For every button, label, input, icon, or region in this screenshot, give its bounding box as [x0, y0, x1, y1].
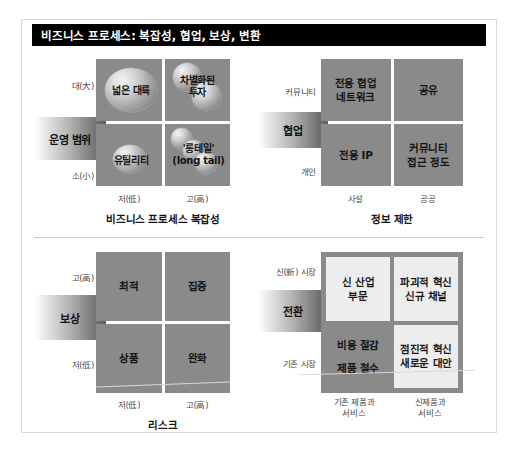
tr-y-tick-individual: 개인	[270, 165, 316, 177]
horizontal-divider	[34, 237, 484, 238]
tl-y-tick-low: 소(小)	[50, 169, 94, 181]
br-cell-bottom-left: 비용 절감 제품 철수	[326, 325, 390, 389]
tr-caption: 정보 제한	[332, 211, 452, 226]
br-cell-top-left: 신 산업 부문	[326, 257, 390, 321]
br-cell-tl-line1: 신 산업	[342, 275, 374, 289]
bl-cell-br-text: 완화	[188, 351, 207, 365]
br-cell-bottom-right: 점진적 혁신 새로운 대안	[394, 325, 458, 389]
bl-x-tick-high: 고(高)	[164, 398, 230, 410]
bubble-label-diff-invest-2: 투자	[165, 86, 231, 99]
tr-matrix: 전용 협업 네트워크 공유 전용 IP 커뮤니티 접근 정도	[321, 59, 463, 186]
tl-y-axis-label: 운영 범위	[49, 131, 91, 147]
br-x-tick-existing-line2: 서비스	[318, 408, 390, 419]
tl-cell-top-right: 차별화된 투자	[165, 59, 231, 121]
bubble-label-utility: 유틸리티	[100, 154, 162, 167]
br-y-tick-new-market: 신(新) 시장	[262, 265, 316, 277]
tr-x-tick-public: 공공	[393, 192, 463, 204]
bl-x-tick-low: 저(低)	[96, 398, 162, 410]
page-title-bar: 비즈니스 프로세스: 복잡성, 협업, 보상, 변환	[32, 24, 486, 46]
tr-cell-tr-line1: 공유	[419, 83, 438, 97]
tl-cell-top-left: 넓은 대륙	[96, 59, 162, 121]
bl-y-tick-high: 고(高)	[50, 271, 94, 283]
bl-y-axis-label: 보상	[60, 310, 79, 326]
tr-cell-top-right: 공유	[394, 59, 464, 121]
tl-x-tick-high: 고(高)	[164, 192, 230, 204]
bl-cell-bl-text: 상품	[119, 351, 138, 365]
br-x-tick-new-line2: 서비스	[394, 408, 466, 419]
tr-cell-tl-line2: 네트워크	[335, 90, 377, 104]
tl-cell-bottom-left: 유틸리티	[96, 124, 162, 186]
bubble-label-long-tail-2: (long tail)	[167, 154, 231, 167]
br-y-tick-existing-market: 기존 시장	[262, 357, 316, 369]
tr-x-tick-private: 사설	[321, 192, 390, 204]
bl-cell-top-left: 최적	[96, 252, 162, 321]
br-x-tick-new: 신제품과 서비스	[394, 397, 466, 420]
br-y-axis-label: 전환	[283, 303, 302, 319]
br-cell-br-line2: 새로운 대안	[400, 356, 452, 370]
bl-cell-bottom-left: 상품	[96, 324, 162, 393]
tl-y-tick-high: 대(大)	[50, 79, 94, 91]
tr-cell-bottom-left: 전용 IP	[321, 124, 391, 186]
tl-x-tick-low: 저(低)	[96, 192, 162, 204]
bl-matrix: 최적 집중 상품 완화	[96, 252, 230, 393]
bl-cell-top-right: 집중	[165, 252, 231, 321]
bl-cell-tr-text: 집중	[188, 279, 207, 293]
bl-y-tick-low: 저(低)	[50, 358, 94, 370]
tr-cell-br-line1: 커뮤니티	[407, 141, 449, 155]
br-cell-tr-line2: 신규 채널	[400, 289, 452, 303]
br-x-tick-new-line1: 신제품과	[394, 397, 466, 408]
br-cell-br-line1: 점진적 혁신	[400, 342, 452, 356]
tr-cell-bottom-right: 커뮤니티 접근 정도	[394, 124, 464, 186]
br-cell-tr-line1: 파괴적 혁신	[400, 275, 452, 289]
br-cell-bl-line1: 비용 절감	[337, 338, 379, 352]
tr-y-axis-label-bar: 협업	[258, 112, 328, 148]
screenshot-root: 비즈니스 프로세스: 복잡성, 협업, 보상, 변환 운영 범위 대(大) 소(…	[0, 0, 518, 454]
br-x-tick-existing: 기존 제품과 서비스	[318, 397, 390, 420]
bl-cell-tl-text: 최적	[119, 279, 138, 293]
bl-caption: 리스크	[123, 417, 203, 432]
tr-y-axis-label: 협업	[283, 122, 302, 138]
tl-cell-bottom-right: '롱테일' (long tail)	[165, 124, 231, 186]
br-y-axis-label-bar: 전환	[258, 290, 328, 332]
tr-cell-top-left: 전용 협업 네트워크	[321, 59, 391, 121]
bubble-label-wide-continent: 넓은 대륙	[100, 84, 162, 97]
page-title: 비즈니스 프로세스: 복잡성, 협업, 보상, 변환	[41, 27, 261, 43]
br-cell-top-right: 파괴적 혁신 신규 채널	[394, 257, 458, 321]
tr-cell-bl-line1: 전용 IP	[339, 148, 373, 162]
tr-cell-tl-line1: 전용 협업	[335, 76, 377, 90]
br-cell-tl-line2: 부문	[342, 289, 374, 303]
tl-matrix: 넓은 대륙 차별화된 투자 유틸리티 '롱테일' (long tail)	[96, 59, 230, 186]
br-x-tick-existing-line1: 기존 제품과	[318, 397, 390, 408]
tl-caption: 비즈니스 프로세스 복잡성	[73, 211, 253, 226]
tr-y-tick-community: 커뮤니티	[270, 85, 316, 97]
tr-cell-br-line2: 접근 정도	[407, 155, 449, 169]
